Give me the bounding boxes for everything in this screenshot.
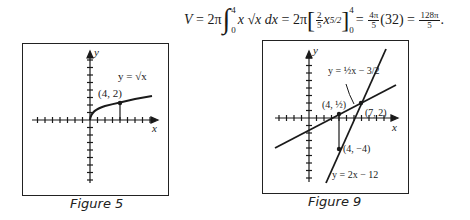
point-4-half (337, 112, 341, 116)
figure-9-plot (0, 0, 470, 220)
figure-9-caption: Figure 9 (308, 194, 361, 209)
label-leader-line (346, 84, 354, 104)
point3-label: (4, −4) (343, 143, 370, 154)
line1-label: y = ½x − 3/2 (328, 65, 380, 76)
point2-label: (7, 2) (365, 107, 387, 118)
y-axis-arrow-icon (306, 51, 312, 58)
point-7-2 (359, 101, 363, 105)
x-axis-label: x (392, 121, 397, 133)
y-axis-label: y (313, 44, 318, 56)
point-4-neg4 (337, 147, 341, 151)
line2-label: y = 2x − 12 (332, 169, 378, 180)
point1-label: (4, ½) (322, 99, 346, 110)
